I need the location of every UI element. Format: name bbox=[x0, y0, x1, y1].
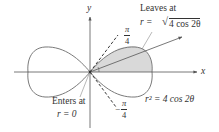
leaves-leader-line bbox=[142, 32, 152, 49]
curve-equation-label: r² = 4 cos 2θ bbox=[145, 95, 194, 105]
angle-lower-denominator: 4 bbox=[121, 110, 127, 120]
x-axis-label: x bbox=[201, 67, 205, 77]
angle-upper-numerator: π bbox=[124, 25, 130, 36]
angle-lower-numerator: π bbox=[121, 99, 127, 110]
dashed-line-minus-pi-over-4 bbox=[90, 72, 116, 107]
angle-label-pi-over-4: π 4 bbox=[124, 25, 130, 45]
origin-point bbox=[89, 71, 92, 74]
leaves-label-line2-prefix: r = bbox=[140, 18, 152, 28]
leaves-label-line1: Leaves at bbox=[140, 4, 176, 14]
angle-label-minus-pi-over-4: π 4 bbox=[121, 99, 127, 119]
angle-lower-sign: − bbox=[115, 105, 120, 114]
leaves-label-radicand: 4 cos 2θ bbox=[169, 18, 200, 30]
y-axis-label: y bbox=[87, 4, 91, 14]
enters-label-line2: r = 0 bbox=[57, 110, 77, 120]
enters-label-line1: Enters at bbox=[52, 97, 86, 107]
sqrt-sign: √ bbox=[162, 16, 168, 27]
angle-upper-denominator: 4 bbox=[124, 36, 130, 46]
